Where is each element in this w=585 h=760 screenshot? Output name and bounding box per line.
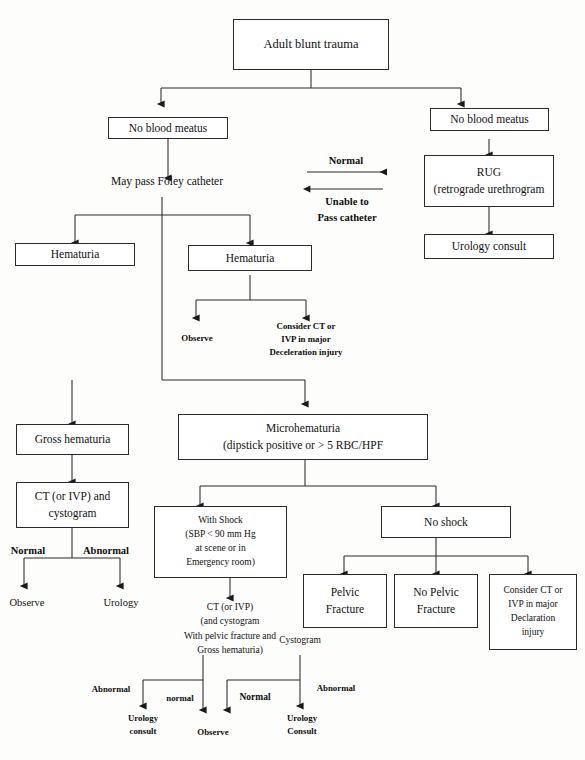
- node-label: No shock: [424, 514, 468, 531]
- node-label-line-2: (dipstick positive or > 5 RBC/HPF: [223, 437, 383, 454]
- edge-label-line-2: Pass catheter: [297, 210, 397, 226]
- edge-label-normal-lower-uppercase: Normal: [227, 690, 283, 704]
- flowchart-canvas: Adult blunt trauma No blood meatus No bl…: [0, 0, 585, 760]
- node-consider-ct-declaration[interactable]: Consider CT or IVP in major Declaration …: [489, 574, 577, 650]
- node-label-line-2: consult: [113, 725, 173, 738]
- node-with-shock[interactable]: With Shock (SBP < 90 mm Hg at scene or i…: [154, 506, 287, 578]
- node-gross-hematuria[interactable]: Gross hematuria: [16, 424, 129, 455]
- node-label-line-2: IVP in major: [508, 598, 557, 612]
- node-label-line-2: IVP in major: [258, 333, 354, 346]
- node-label-line-1: CT (or IVP) and: [35, 488, 111, 505]
- node-urology-consult-bottom-left[interactable]: Urology consult: [113, 712, 173, 738]
- edge-label-text: Normal: [227, 690, 283, 704]
- node-label-line-1: Pelvic: [331, 584, 360, 601]
- node-label: No blood meatus: [129, 120, 208, 137]
- node-no-blood-meatus-right[interactable]: No blood meatus: [430, 108, 549, 131]
- node-label: Hematuria: [226, 250, 275, 267]
- node-hematuria-mid[interactable]: Hematuria: [188, 245, 312, 271]
- edge-label-text: Normal: [0, 543, 58, 559]
- node-consider-ct-ivp-deceleration[interactable]: Consider CT or IVP in major Deceleration…: [258, 320, 354, 360]
- edge-label-abnormal-bottom-right: Abnormal: [305, 682, 367, 695]
- node-label-line-1: Urology: [113, 712, 173, 725]
- node-label-line-2: (retrograde urethrogram: [434, 181, 545, 198]
- node-label-line-2: Consult: [272, 725, 332, 738]
- node-no-shock[interactable]: No shock: [381, 506, 511, 538]
- node-label-line-1: RUG: [477, 164, 501, 181]
- node-label-line-1: Microhematuria: [266, 420, 340, 437]
- node-label-line-2: Fracture: [326, 601, 364, 618]
- node-label-line-3: Declaration: [511, 612, 555, 626]
- node-hematuria-left[interactable]: Hematuria: [15, 243, 135, 266]
- node-label: Observe: [0, 595, 54, 611]
- node-label-line-4: injury: [522, 626, 545, 640]
- node-label-line-2: (and cystogram: [152, 614, 308, 628]
- node-pelvic-fracture[interactable]: Pelvic Fracture: [303, 574, 387, 628]
- node-ct-ivp-and-cystogram[interactable]: CT (or IVP) and cystogram: [16, 482, 129, 528]
- node-label: Cystogram: [267, 633, 333, 647]
- node-label-line-1: No Pelvic: [413, 584, 459, 601]
- node-microhematuria[interactable]: Microhematuria (dipstick positive or > 5…: [178, 414, 428, 460]
- edge-label-unable-to-pass-catheter: Unable to Pass catheter: [297, 194, 397, 226]
- node-label-line-1: Consider CT or: [258, 320, 354, 333]
- node-label-line-1: Consider CT or: [504, 584, 563, 598]
- node-label-line-2: (SBP < 90 mm Hg: [185, 528, 255, 542]
- node-label: May pass Foley catheter: [92, 173, 242, 190]
- node-label: Urology consult: [452, 238, 526, 255]
- node-urology-consult-right[interactable]: Urology consult: [424, 234, 554, 259]
- node-label-line-3: Deceleration injury: [258, 346, 354, 359]
- node-label-line-1: Urology: [272, 712, 332, 725]
- edge-label-normal-arrow: Normal: [308, 153, 384, 169]
- node-may-pass-foley-catheter[interactable]: May pass Foley catheter: [92, 173, 242, 190]
- node-observe-gross[interactable]: Observe: [0, 595, 54, 611]
- edge-label-text: normal: [154, 692, 206, 705]
- node-ct-ivp-pelvic-fracture[interactable]: CT (or IVP) (and cystogram With pelvic f…: [152, 600, 308, 657]
- edge-label-line-1: Unable to: [297, 194, 397, 210]
- node-observe-bottom[interactable]: Observe: [185, 726, 241, 739]
- node-adult-blunt-trauma[interactable]: Adult blunt trauma: [233, 19, 389, 70]
- node-label-line-1: CT (or IVP): [152, 600, 308, 614]
- node-label-line-2: cystogram: [49, 505, 97, 522]
- node-label: Observe: [185, 726, 241, 739]
- edge-label-normal-lower-lowercase: normal: [154, 692, 206, 705]
- edge-label-text: Abnormal: [80, 683, 142, 696]
- node-urology-consult-bottom-right[interactable]: Urology Consult: [272, 712, 332, 738]
- node-label-line-3: at scene or in: [195, 542, 245, 556]
- node-label: Gross hematuria: [35, 431, 111, 448]
- node-rug[interactable]: RUG (retrograde urethrogram: [424, 155, 554, 207]
- node-no-blood-meatus-left[interactable]: No blood meatus: [108, 117, 228, 139]
- node-label: Adult blunt trauma: [263, 35, 358, 53]
- edge-label-abnormal-bottom-left: Abnormal: [80, 683, 142, 696]
- edge-label-text: Abnormal: [305, 682, 367, 695]
- node-label: Urology: [93, 595, 149, 611]
- node-observe-under-hematuria[interactable]: Observe: [171, 332, 223, 345]
- node-no-pelvic-fracture[interactable]: No Pelvic Fracture: [394, 574, 478, 628]
- node-label-line-1: With Shock: [198, 514, 243, 528]
- node-label-line-4: Emergency room): [186, 556, 255, 570]
- edge-label-text: Normal: [308, 153, 384, 169]
- edge-label-normal-gross: Normal: [0, 543, 58, 559]
- edge-label-text: Abnormal: [70, 543, 142, 559]
- edge-label-abnormal-gross: Abnormal: [70, 543, 142, 559]
- node-cystogram-note[interactable]: Cystogram: [267, 633, 333, 647]
- node-label: Hematuria: [51, 246, 100, 263]
- node-urology-gross[interactable]: Urology: [93, 595, 149, 611]
- node-label-line-2: Fracture: [417, 601, 455, 618]
- node-label: No blood meatus: [450, 111, 529, 128]
- node-label: Observe: [171, 332, 223, 345]
